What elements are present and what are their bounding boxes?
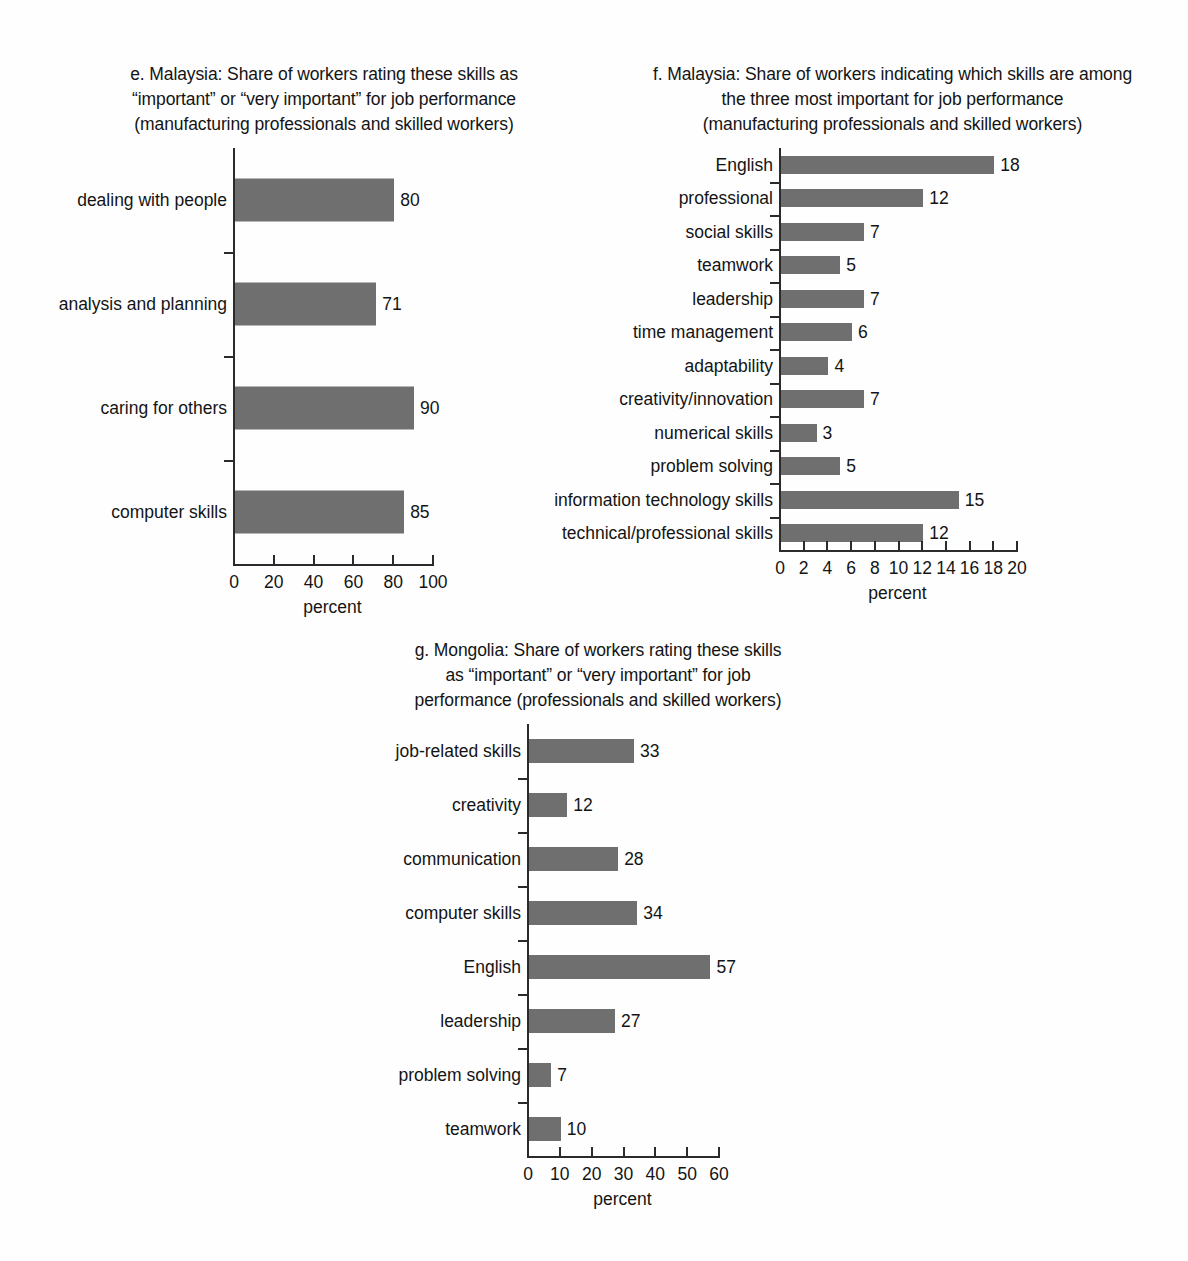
chart-g-y-axis-line bbox=[527, 724, 529, 1156]
chart-g-plot-area: job-related skills33creativity12communic… bbox=[318, 724, 878, 1234]
chart-g-y-tick bbox=[518, 994, 527, 996]
chart-f-category-label: problem solving bbox=[650, 456, 773, 476]
chart-e-x-tick-label: 100 bbox=[418, 572, 447, 592]
chart-e-x-tick bbox=[313, 555, 315, 564]
figure-page: e. Malaysia: Share of workers rating the… bbox=[0, 0, 1188, 1261]
chart-g-bar-value: 10 bbox=[567, 1119, 586, 1139]
chart-g-x-tick-label: 30 bbox=[614, 1164, 633, 1184]
chart-e-title-line-2: “important” or “very important” for job … bbox=[64, 87, 584, 112]
chart-f-bar-value: 4 bbox=[834, 356, 844, 376]
chart-f-x-tick-label: 0 bbox=[775, 558, 785, 578]
chart-f-x-tick-label: 18 bbox=[984, 558, 1003, 578]
chart-f-category-label: time management bbox=[633, 322, 773, 342]
chart-f-x-tick-label: 6 bbox=[846, 558, 856, 578]
chart-e-y-tick bbox=[224, 460, 233, 462]
chart-f-title-line-3: (manufacturing professionals and skilled… bbox=[620, 112, 1165, 137]
chart-f-x-tick-label: 4 bbox=[823, 558, 833, 578]
chart-e-x-tick-label: 0 bbox=[229, 572, 239, 592]
chart-f-bar-value: 7 bbox=[870, 289, 880, 309]
chart-g-bar-value: 12 bbox=[573, 795, 592, 815]
chart-e-category-label: computer skills bbox=[111, 502, 227, 522]
chart-f-y-tick bbox=[770, 316, 779, 318]
chart-f-bar bbox=[781, 424, 817, 442]
chart-f-category-label: leadership bbox=[692, 289, 773, 309]
chart-e: dealing with people80analysis and planni… bbox=[64, 148, 584, 618]
chart-g-y-tick bbox=[518, 1048, 527, 1050]
chart-e-x-tick bbox=[273, 555, 275, 564]
chart-g-x-tick-label: 60 bbox=[709, 1164, 728, 1184]
chart-f-bar-value: 18 bbox=[1000, 155, 1019, 175]
chart-e-x-tick bbox=[432, 555, 434, 564]
chart-e-x-tick bbox=[392, 555, 394, 564]
chart-g-bar-value: 33 bbox=[640, 741, 659, 761]
chart-f-y-tick bbox=[770, 450, 779, 452]
chart-f-x-axis-line bbox=[779, 550, 1018, 552]
chart-f-x-tick bbox=[1016, 541, 1018, 550]
chart-f-category-label: information technology skills bbox=[554, 490, 773, 510]
chart-f-bar bbox=[781, 256, 840, 274]
chart-e-x-tick-label: 20 bbox=[264, 572, 283, 592]
chart-f-bar-value: 6 bbox=[858, 322, 868, 342]
chart-g-x-tick bbox=[718, 1147, 720, 1156]
chart-f-category-label: creativity/innovation bbox=[619, 389, 773, 409]
chart-g-x-tick-label: 20 bbox=[582, 1164, 601, 1184]
chart-f-bar bbox=[781, 491, 959, 509]
panel-chart-e: e. Malaysia: Share of workers rating the… bbox=[64, 62, 584, 622]
chart-g-y-tick bbox=[518, 778, 527, 780]
chart-g-y-tick bbox=[518, 886, 527, 888]
chart-f-x-tick bbox=[850, 541, 852, 550]
chart-f-bar-value: 15 bbox=[965, 490, 984, 510]
chart-g-x-tick-label: 50 bbox=[677, 1164, 696, 1184]
chart-f-category-label: social skills bbox=[685, 222, 773, 242]
chart-g-y-tick bbox=[518, 1102, 527, 1104]
chart-g-category-label: problem solving bbox=[398, 1065, 521, 1085]
chart-f-y-tick bbox=[770, 517, 779, 519]
chart-g-x-tick bbox=[623, 1147, 625, 1156]
chart-g-category-label: teamwork bbox=[445, 1119, 521, 1139]
chart-g-x-tick-label: 0 bbox=[523, 1164, 533, 1184]
chart-g-x-axis-caption: percent bbox=[593, 1189, 651, 1209]
chart-g-category-label: computer skills bbox=[405, 903, 521, 923]
chart-f-bar-value: 7 bbox=[870, 222, 880, 242]
chart-g-x-tick-label: 40 bbox=[646, 1164, 665, 1184]
chart-g-title-line-1: g. Mongolia: Share of workers rating the… bbox=[318, 638, 878, 663]
chart-f-category-label: adaptability bbox=[684, 356, 773, 376]
chart-g-bar bbox=[529, 1009, 615, 1033]
chart-f-y-axis-line bbox=[779, 148, 781, 550]
chart-g-bar bbox=[529, 955, 710, 979]
chart-e-title-line-3: (manufacturing professionals and skilled… bbox=[64, 112, 584, 137]
chart-g-bar bbox=[529, 1117, 561, 1141]
chart-e-bar-value: 85 bbox=[410, 502, 429, 522]
chart-f-x-tick bbox=[826, 541, 828, 550]
chart-e-x-tick-label: 80 bbox=[383, 572, 402, 592]
chart-g-x-tick bbox=[686, 1147, 688, 1156]
chart-f: English18professional12social skills7tea… bbox=[620, 148, 1165, 618]
chart-g-bar bbox=[529, 901, 637, 925]
chart-f-title-line-1: f. Malaysia: Share of workers indicating… bbox=[620, 62, 1165, 87]
chart-e-bar-value: 71 bbox=[382, 294, 401, 314]
chart-e-bar-value: 80 bbox=[400, 190, 419, 210]
chart-f-bar-value: 5 bbox=[846, 456, 856, 476]
chart-g-y-tick bbox=[518, 832, 527, 834]
chart-f-x-tick bbox=[898, 541, 900, 550]
chart-g-x-tick bbox=[654, 1147, 656, 1156]
panel-chart-f: f. Malaysia: Share of workers indicating… bbox=[620, 62, 1165, 622]
chart-f-y-tick bbox=[770, 383, 779, 385]
chart-e-bar-value: 90 bbox=[420, 398, 439, 418]
chart-f-x-tick-label: 16 bbox=[960, 558, 979, 578]
chart-e-title: e. Malaysia: Share of workers rating the… bbox=[64, 62, 584, 137]
chart-f-x-tick-label: 10 bbox=[889, 558, 908, 578]
chart-g-bar-value: 27 bbox=[621, 1011, 640, 1031]
chart-f-bar-value: 7 bbox=[870, 389, 880, 409]
chart-g-bar bbox=[529, 847, 618, 871]
chart-f-category-label: technical/professional skills bbox=[562, 523, 773, 543]
chart-f-bar-value: 3 bbox=[823, 423, 833, 443]
chart-f-x-tick bbox=[779, 541, 781, 550]
chart-f-bar bbox=[781, 290, 864, 308]
chart-f-x-tick bbox=[992, 541, 994, 550]
chart-e-bar bbox=[235, 491, 404, 534]
chart-e-x-tick-label: 60 bbox=[344, 572, 363, 592]
chart-f-category-label: numerical skills bbox=[654, 423, 773, 443]
chart-e-bar bbox=[235, 387, 414, 430]
chart-f-x-tick-label: 12 bbox=[912, 558, 931, 578]
